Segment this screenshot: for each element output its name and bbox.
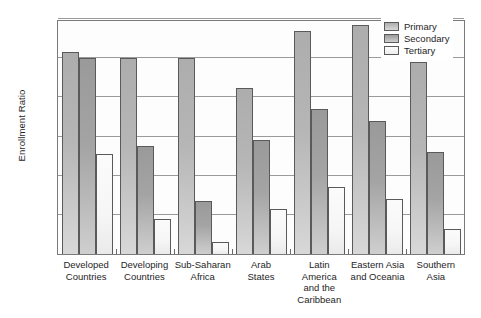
legend-item-tertiary[interactable]: Tertiary bbox=[384, 45, 449, 56]
x-axis-label: Sub-SaharanAfrica bbox=[174, 259, 232, 305]
bar-secondary[interactable] bbox=[427, 152, 444, 254]
bar-group bbox=[232, 21, 290, 254]
x-axis-label-line: Countries bbox=[116, 271, 172, 283]
legend-label-secondary: Secondary bbox=[404, 33, 449, 44]
x-tick-mark bbox=[406, 249, 407, 254]
x-axis-label-line: Developed bbox=[58, 259, 114, 271]
x-tick-mark bbox=[232, 249, 233, 254]
x-axis-label: Eastern Asiaand Oceania bbox=[348, 259, 406, 305]
chart-legend: PrimarySecondaryTertiary bbox=[381, 18, 453, 60]
x-axis-label-line: Southern bbox=[408, 259, 464, 271]
bar-tertiary[interactable] bbox=[96, 154, 113, 254]
x-axis-label-line: Developing bbox=[116, 259, 172, 271]
x-axis-label: DevelopedCountries bbox=[57, 259, 115, 305]
bar-primary[interactable] bbox=[236, 88, 253, 254]
legend-item-secondary[interactable]: Secondary bbox=[384, 33, 449, 44]
x-axis-label-line: Arab bbox=[233, 259, 289, 271]
bar-primary[interactable] bbox=[178, 58, 195, 254]
bar-secondary[interactable] bbox=[253, 140, 270, 254]
legend-swatch-secondary bbox=[384, 34, 399, 43]
x-axis-label-line: States bbox=[233, 271, 289, 283]
bar-secondary[interactable] bbox=[195, 201, 212, 254]
bar-tertiary[interactable] bbox=[444, 229, 461, 254]
x-axis-label: ArabStates bbox=[232, 259, 290, 305]
x-tick-mark bbox=[174, 249, 175, 254]
x-axis-label-line: Africa bbox=[175, 271, 231, 283]
bar-tertiary[interactable] bbox=[212, 242, 229, 254]
bar-group bbox=[58, 21, 116, 254]
x-axis-labels: DevelopedCountriesDevelopingCountriesSub… bbox=[57, 259, 465, 305]
legend-label-tertiary: Tertiary bbox=[404, 45, 435, 56]
bar-group bbox=[116, 21, 174, 254]
bar-chart-figure: Enrollment Ratio 020406080100120 Develop… bbox=[0, 0, 481, 318]
x-axis-label-line: and Oceania bbox=[349, 271, 405, 283]
bar-secondary[interactable] bbox=[311, 109, 328, 254]
x-axis-label-line: America bbox=[291, 271, 347, 283]
x-axis-label-line: Eastern Asia bbox=[349, 259, 405, 271]
x-tick-mark bbox=[290, 249, 291, 254]
x-axis-label-line: Sub-Saharan bbox=[175, 259, 231, 271]
bar-primary[interactable] bbox=[294, 31, 311, 254]
x-axis-label-line: Countries bbox=[58, 271, 114, 283]
bar-tertiary[interactable] bbox=[328, 187, 345, 254]
x-axis-label-line: Caribbean bbox=[291, 294, 347, 306]
x-axis-label-line: and the bbox=[291, 282, 347, 294]
x-axis-label: DevelopingCountries bbox=[115, 259, 173, 305]
bar-primary[interactable] bbox=[352, 25, 369, 254]
legend-swatch-primary bbox=[384, 22, 399, 31]
x-axis-label-line: Asia bbox=[408, 271, 464, 283]
x-axis-label-line: Latin bbox=[291, 259, 347, 271]
legend-swatch-tertiary bbox=[384, 46, 399, 55]
x-axis-label: LatinAmericaand theCaribbean bbox=[290, 259, 348, 305]
bar-secondary[interactable] bbox=[79, 58, 96, 254]
y-axis-title: Enrollment Ratio bbox=[16, 61, 27, 191]
bar-secondary[interactable] bbox=[137, 146, 154, 254]
bar-tertiary[interactable] bbox=[386, 199, 403, 254]
x-axis-label: SouthernAsia bbox=[407, 259, 465, 305]
bar-group bbox=[174, 21, 232, 254]
bar-group bbox=[290, 21, 348, 254]
bar-secondary[interactable] bbox=[369, 121, 386, 254]
x-tick-mark bbox=[348, 249, 349, 254]
legend-item-primary[interactable]: Primary bbox=[384, 21, 449, 32]
bar-primary[interactable] bbox=[410, 62, 427, 254]
bar-primary[interactable] bbox=[120, 58, 137, 254]
bar-tertiary[interactable] bbox=[154, 219, 171, 254]
bar-tertiary[interactable] bbox=[270, 209, 287, 254]
x-tick-mark bbox=[116, 249, 117, 254]
legend-label-primary: Primary bbox=[404, 21, 437, 32]
bar-primary[interactable] bbox=[62, 52, 79, 254]
